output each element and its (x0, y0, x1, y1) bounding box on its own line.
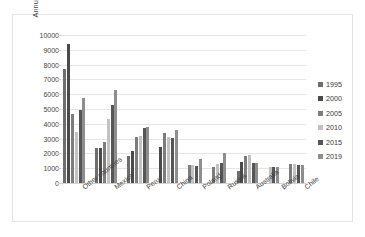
bar-2019 (82, 98, 85, 183)
y-tick-7000: 7000 (43, 76, 59, 83)
bar-groups (61, 35, 306, 183)
bar-2010 (139, 136, 142, 183)
legend-item-2015[interactable]: 2015 (318, 135, 365, 150)
tickmark-0 (58, 183, 61, 184)
y-tick-6000: 6000 (43, 91, 59, 98)
bar-2010 (248, 155, 251, 183)
legend-swatch-icon (318, 96, 323, 101)
legend-swatch-icon (318, 125, 323, 130)
y-tick-10000: 10000 (40, 32, 59, 39)
y-tick-4000: 4000 (43, 120, 59, 127)
y-axis-title: Annual silver production (metric tons) (23, 0, 39, 33)
bar-2019 (255, 163, 258, 183)
bar-2000 (159, 147, 162, 183)
bar-2015 (252, 163, 255, 183)
bar-group (159, 35, 178, 183)
bar-2019 (175, 130, 178, 183)
bar-2010 (107, 119, 110, 183)
x-axis-category-labels: Other countriesMexicoPeruChinaPolandRuss… (61, 185, 306, 235)
x-label-australia: Australia (254, 185, 258, 191)
legend-swatch-icon (318, 111, 323, 116)
legend-label: 2010 (326, 123, 342, 132)
bar-group (268, 35, 279, 183)
bar-2019 (114, 90, 117, 183)
legend-item-1995[interactable]: 1995 (318, 77, 365, 92)
bar-2019 (223, 153, 226, 183)
bar-1995 (63, 69, 66, 183)
bar-2010 (167, 137, 170, 183)
x-label-chile: Chile (303, 185, 307, 191)
plot-area: 0100020003000400050006000700080009000100… (61, 35, 306, 183)
x-label-mexico: Mexico (113, 185, 117, 191)
bar-group (236, 35, 259, 183)
y-axis-title-line-1: Annual silver production (32, 0, 41, 33)
legend-swatch-icon (318, 140, 323, 145)
x-label-other-countries: Other countries (81, 185, 85, 191)
legend-label: 2015 (326, 138, 342, 147)
legend-swatch-icon (318, 154, 323, 159)
bar-2010 (75, 132, 78, 183)
bar-2019 (301, 165, 304, 184)
x-label-russia: Russia (226, 185, 230, 191)
bar-group (289, 35, 304, 183)
bar-2019 (146, 127, 149, 183)
legend-item-2010[interactable]: 2010 (318, 121, 365, 136)
y-axis-tick-labels: 0100020003000400050006000700080009000100… (33, 35, 59, 183)
chart-container: Annual silver production (metric tons) 0… (12, 14, 353, 222)
bar-2005 (135, 137, 138, 183)
x-label-poland: Poland (201, 185, 205, 191)
y-tick-5000: 5000 (43, 106, 59, 113)
legend-label: 2019 (326, 152, 342, 161)
x-label-peru: Peru (145, 185, 149, 191)
bar-2005 (71, 114, 74, 183)
bar-2005 (163, 133, 166, 183)
chart-legend: 199520002005201020152019 (318, 77, 365, 164)
bar-2005 (103, 142, 106, 183)
legend-item-2019[interactable]: 2019 (318, 150, 365, 165)
bar-2015 (143, 128, 146, 183)
legend-item-2005[interactable]: 2005 (318, 106, 365, 121)
bar-group (187, 35, 202, 183)
legend-label: 1995 (326, 80, 342, 89)
y-tick-3000: 3000 (43, 135, 59, 142)
legend-swatch-icon (318, 82, 323, 87)
y-tick-8000: 8000 (43, 61, 59, 68)
bar-group (212, 35, 227, 183)
legend-item-2000[interactable]: 2000 (318, 92, 365, 107)
x-label-bolivia: Bolivia (280, 185, 284, 191)
bar-2015 (79, 110, 82, 183)
bar-2019 (199, 159, 202, 183)
bar-2000 (67, 44, 70, 183)
y-tick-2000: 2000 (43, 150, 59, 157)
y-tick-1000: 1000 (43, 165, 59, 172)
bar-group (63, 35, 86, 183)
y-axis-title-line-2: (metric tons) (49, 0, 58, 33)
bar-2015 (111, 105, 114, 183)
y-tick-9000: 9000 (43, 46, 59, 53)
bar-group (127, 35, 150, 183)
legend-label: 2005 (326, 109, 342, 118)
bar-2015 (195, 166, 198, 183)
bar-2015 (171, 138, 174, 183)
legend-label: 2000 (326, 94, 342, 103)
x-label-china: China (175, 185, 179, 191)
